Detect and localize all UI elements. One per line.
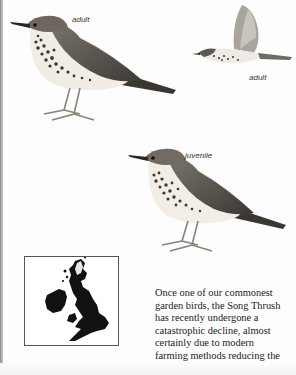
text-line: garden birds, the Song Thrush — [155, 300, 295, 313]
page-gutter-shadow — [0, 0, 3, 375]
text-line: Once one of our commonest — [155, 287, 295, 300]
british-isles-map — [25, 257, 118, 345]
perched-adult-thrush-illustration — [8, 10, 178, 125]
perched-adult-label: adult — [72, 15, 89, 24]
species-description: Once one of our commonest garden birds, … — [155, 287, 295, 363]
perched-juvenile-thrush-illustration — [128, 145, 288, 253]
text-line: certainly due to modern — [155, 337, 295, 350]
text-line: farming methods reducing the — [155, 350, 295, 363]
flying-adult-label: adult — [249, 73, 266, 82]
flying-adult-thrush-illustration — [192, 3, 294, 67]
juvenile-label: juvenile — [185, 151, 212, 160]
page-bottom-edge — [0, 363, 296, 375]
distribution-map — [24, 256, 119, 346]
text-line: has recently undergone a — [155, 312, 295, 325]
text-line: catastrophic decline, almost — [155, 325, 295, 338]
